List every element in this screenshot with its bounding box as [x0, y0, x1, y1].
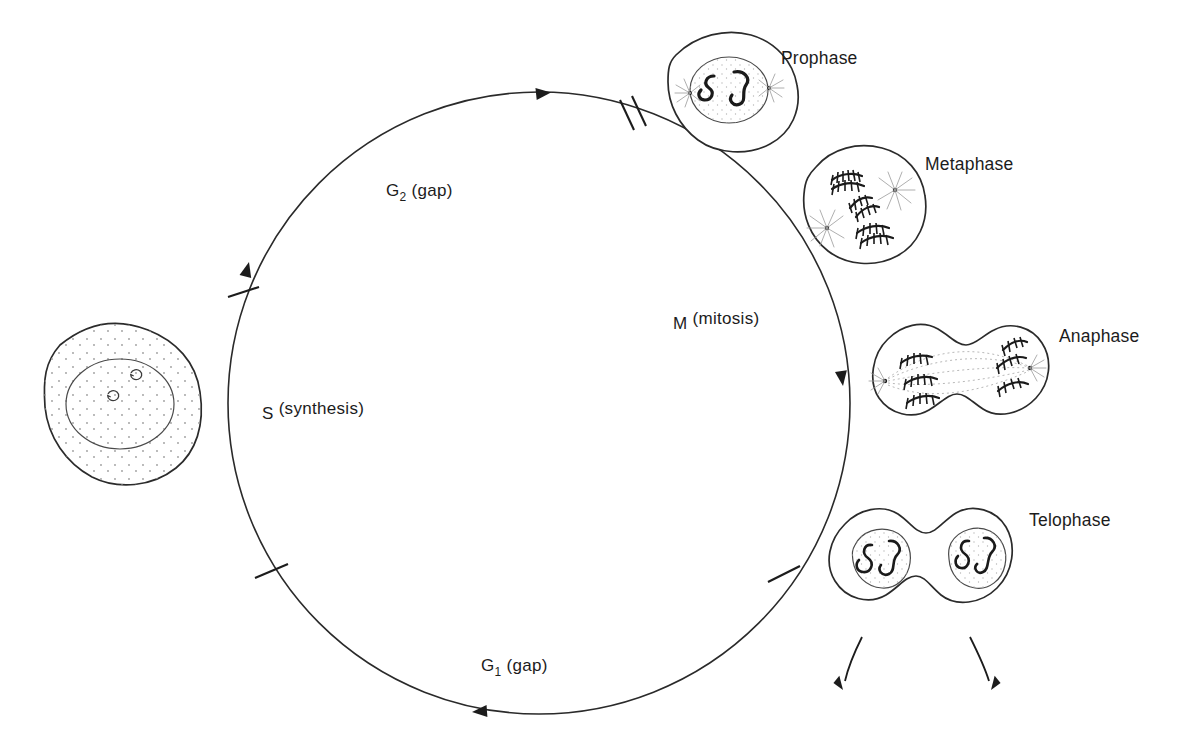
tick-g1-s-boundary	[255, 564, 288, 578]
phase-label-g2: G2 (gap)	[386, 181, 453, 204]
anaphase-membrane	[873, 324, 1049, 414]
cycle-arrow-right	[835, 370, 849, 387]
anaphase-label: Anaphase	[1059, 326, 1139, 346]
phase-label-s: S (synthesis)	[262, 399, 364, 423]
prophase-cell: Prophase	[668, 32, 858, 152]
metaphase-cell: Metaphase	[804, 146, 1014, 264]
prophase-label: Prophase	[781, 48, 858, 68]
phase-label-g1: G1 (gap)	[481, 656, 548, 679]
tick-g2-m-boundary	[620, 96, 646, 130]
metaphase-membrane	[804, 146, 926, 264]
daughter-arrow-right-head	[988, 675, 1002, 690]
anaphase-cell: Anaphase	[869, 324, 1139, 414]
metaphase-label: Metaphase	[925, 154, 1013, 174]
cycle-arrow-top	[535, 87, 551, 101]
daughter-arrow-left-shaft	[845, 637, 862, 681]
cell-cycle-canvas: G2 (gap) M (mitosis) S (synthesis) G1 (g…	[0, 0, 1196, 737]
telophase-cell: Telophase	[829, 508, 1110, 602]
cell-cycle-figure: G2 (gap) M (mitosis) S (synthesis) G1 (g…	[0, 0, 1196, 737]
interphase-cell	[44, 323, 201, 485]
phase-label-m: M (mitosis)	[673, 309, 759, 333]
tick-s-g2-boundary	[228, 287, 259, 297]
daughter-arrows	[832, 637, 1001, 690]
telophase-label: Telophase	[1029, 510, 1111, 530]
daughter-arrow-left-head	[832, 675, 846, 690]
daughter-arrow-right-shaft	[970, 637, 989, 681]
cycle-arrow-left	[240, 261, 255, 278]
